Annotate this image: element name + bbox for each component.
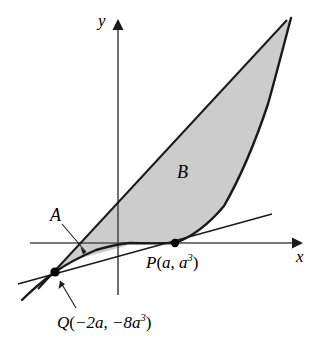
point-q-label: Q(−2a, −8a3): [57, 313, 151, 331]
point-p-marker: [171, 239, 179, 247]
leader-line-q: [59, 281, 77, 308]
point-q-name: Q: [57, 313, 69, 332]
region-b-shading: [55, 20, 290, 272]
point-p-y-base: a: [179, 253, 188, 272]
point-p-name: P: [146, 253, 156, 272]
region-a-label: A: [50, 206, 61, 224]
point-p-x: a: [162, 253, 171, 272]
y-axis-arrowhead: [113, 19, 124, 30]
point-q-close-paren: ): [146, 313, 152, 332]
point-q-marker: [50, 267, 59, 276]
point-q-comma: ,: [103, 313, 112, 332]
y-axis: [113, 19, 124, 295]
point-p-comma: ,: [171, 253, 180, 272]
point-q-x: −2a: [75, 313, 103, 332]
x-axis-label-text: x: [296, 247, 304, 266]
diagram-svg: [0, 0, 318, 356]
y-axis-label: y: [98, 12, 106, 29]
figure-canvas: y x A B P(a, a3) Q(−2a, −8a3): [0, 0, 318, 356]
y-axis-label-text: y: [98, 11, 106, 30]
point-p-close-paren: ): [193, 253, 199, 272]
x-axis-label: x: [296, 248, 304, 265]
point-p-label: P(a, a3): [146, 253, 199, 271]
region-b-label: B: [177, 163, 188, 181]
point-q-y-base: −8a: [112, 313, 140, 332]
